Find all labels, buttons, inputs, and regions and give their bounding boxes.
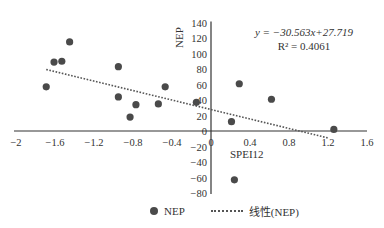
data-point — [132, 101, 139, 108]
x-tick-label: −1.2 — [84, 137, 103, 148]
data-point — [126, 113, 133, 120]
y-tick-label: −20 — [191, 142, 207, 153]
scatter-chart: −2−1.6−1.2−0.8−0.400.40.81.21.6140120100… — [0, 0, 384, 228]
data-point — [268, 96, 275, 103]
regression-equation: y = −30.563x+27.719 — [254, 26, 354, 38]
data-point — [115, 63, 122, 70]
data-point — [193, 99, 200, 106]
x-tick-label: −2 — [10, 137, 21, 148]
legend-label-trend: 线性(NEP) — [249, 203, 299, 219]
x-tick-label: 0.4 — [243, 137, 257, 148]
y-axis-title: NEP — [173, 27, 185, 48]
y-tick-label: 20 — [197, 111, 208, 122]
scatter-marker-icon — [150, 207, 158, 215]
y-tick-label: −40 — [191, 157, 207, 168]
x-tick-label: −0.4 — [162, 137, 182, 148]
data-point — [231, 176, 238, 183]
y-tick-label: 0 — [202, 126, 207, 137]
data-point — [58, 58, 65, 65]
r-squared-label: R² = 0.4061 — [278, 40, 331, 52]
data-point — [43, 83, 50, 90]
data-point — [330, 126, 337, 133]
dotted-line-icon — [211, 210, 243, 212]
legend: NEP 线性(NEP) — [150, 203, 325, 219]
y-tick-label: 140 — [191, 18, 207, 29]
data-point — [50, 58, 57, 65]
x-tick-label: 1.6 — [360, 137, 373, 148]
y-tick-label: −60 — [191, 173, 207, 184]
legend-label-nep: NEP — [164, 205, 185, 217]
y-tick-label: −80 — [191, 188, 207, 199]
x-tick-label: 1.2 — [321, 137, 334, 148]
data-point — [66, 38, 73, 45]
y-tick-label: 100 — [191, 49, 207, 60]
x-tick-label: −0.8 — [123, 137, 142, 148]
y-tick-label: 60 — [197, 80, 208, 91]
data-point — [115, 93, 122, 100]
data-point — [228, 118, 235, 125]
y-tick-label: 80 — [197, 64, 208, 75]
y-tick-label: 120 — [191, 33, 207, 44]
x-tick-label: 0.8 — [282, 137, 295, 148]
data-point — [236, 80, 243, 87]
legend-item-trend: 线性(NEP) — [211, 203, 299, 219]
data-point — [162, 83, 169, 90]
legend-item-nep: NEP — [150, 205, 185, 217]
x-tick-label: −1.6 — [45, 137, 64, 148]
trendline — [46, 69, 328, 137]
data-point — [155, 100, 162, 107]
x-axis-title: SPEI12 — [230, 148, 264, 160]
x-tick-label: 0 — [208, 137, 213, 148]
